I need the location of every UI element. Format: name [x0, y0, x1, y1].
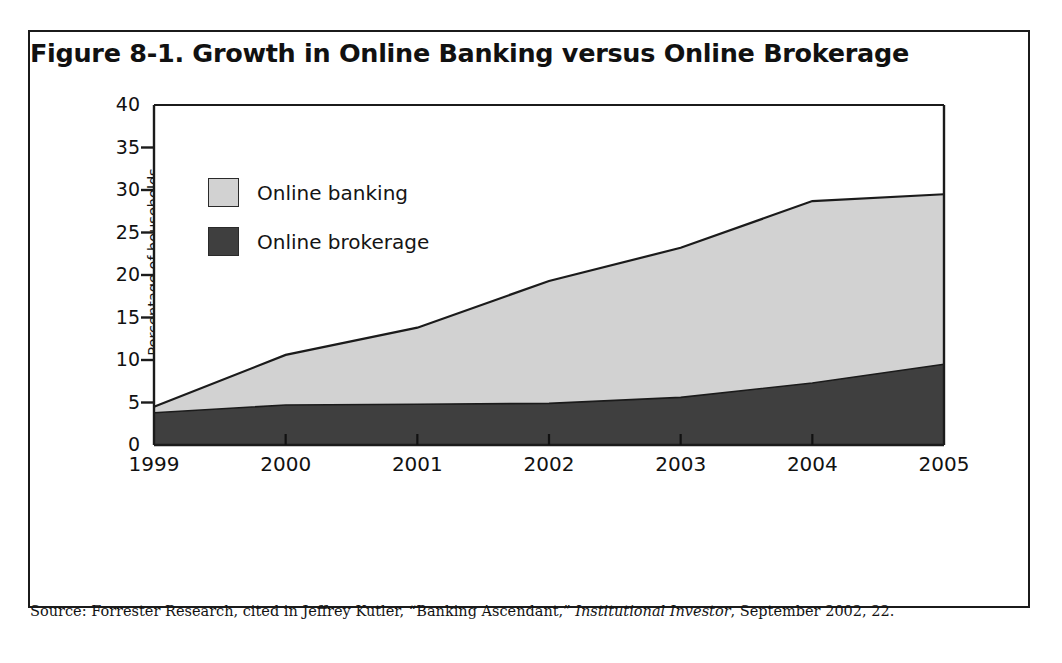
x-axis-tick-label: 2003: [655, 452, 706, 476]
source-note-suffix: , September 2002, 22.: [731, 603, 895, 619]
source-note-prefix: Source: Forrester Research, cited in Jef…: [30, 603, 575, 619]
x-axis-tick-label: 1999: [129, 452, 180, 476]
legend-swatch-icon: [208, 178, 239, 207]
x-axis-tick-label: 2002: [524, 452, 575, 476]
x-axis-tick-label: 2005: [919, 452, 970, 476]
x-axis-tick-labels: 1999200020012002200320042005: [66, 452, 966, 492]
chart-area: Percentage of households 051015202530354…: [66, 100, 966, 490]
stacked-area-plot: [66, 100, 966, 490]
x-axis-tick-label: 2000: [260, 452, 311, 476]
y-axis-ticks: [141, 148, 154, 403]
x-axis-tick-label: 2001: [392, 452, 443, 476]
chart-legend: Online bankingOnline brokerage: [208, 178, 429, 256]
legend-item: Online brokerage: [208, 227, 429, 256]
legend-swatch-icon: [208, 227, 239, 256]
x-axis-tick-label: 2004: [787, 452, 838, 476]
legend-item: Online banking: [208, 178, 429, 207]
figure-title: Figure 8-1. Growth in Online Banking ver…: [30, 38, 909, 68]
legend-label: Online brokerage: [257, 230, 429, 254]
legend-label: Online banking: [257, 181, 408, 205]
source-note-publication: Institutional Investor: [575, 603, 730, 619]
source-note: Source: Forrester Research, cited in Jef…: [30, 603, 894, 619]
